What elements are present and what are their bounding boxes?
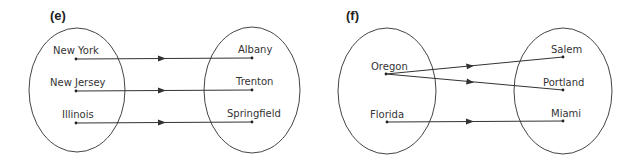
codomain-item: Springfield xyxy=(227,108,281,119)
mapping-arrow xyxy=(75,120,254,126)
mapping-diagrams: (e) New York New Jersey Illinois Albany … xyxy=(0,0,640,163)
panel-f: (f) Oregon Florida Salem Portland Miami xyxy=(338,8,612,154)
arrowhead-icon xyxy=(158,56,166,62)
arrowhead-icon xyxy=(466,119,474,125)
mapping-arrow xyxy=(386,119,565,125)
domain-item: New Jersey xyxy=(50,77,106,88)
arrowhead-icon xyxy=(158,120,166,126)
mapping-arrow xyxy=(385,56,565,76)
codomain-item: Miami xyxy=(551,108,581,119)
mapping-arrow xyxy=(386,74,564,91)
mapping-arrow xyxy=(75,56,254,62)
mapping-arrow xyxy=(75,88,254,94)
codomain-item: Portland xyxy=(543,77,584,88)
domain-item: New York xyxy=(53,45,99,56)
domain-ellipse-f xyxy=(338,28,436,154)
arrowhead-icon xyxy=(466,64,474,70)
arrowhead-icon xyxy=(158,88,166,94)
domain-item: Illinois xyxy=(62,109,94,120)
domain-item: Florida xyxy=(370,109,404,120)
panel-e: (e) New York New Jersey Illinois Albany … xyxy=(29,8,300,153)
panel-label-f: (f) xyxy=(346,8,359,23)
panel-label-e: (e) xyxy=(50,8,66,23)
codomain-item: Albany xyxy=(238,44,272,55)
domain-item: Oregon xyxy=(371,61,408,72)
codomain-item: Salem xyxy=(551,44,582,55)
codomain-item: Trenton xyxy=(235,76,273,87)
